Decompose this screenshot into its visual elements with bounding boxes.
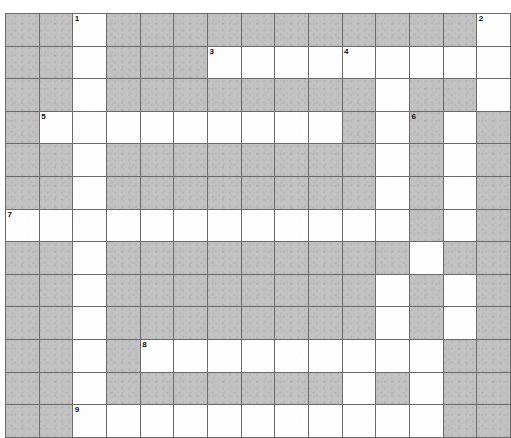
crossword-block-cell xyxy=(342,307,376,340)
crossword-open-cell[interactable] xyxy=(174,405,208,438)
crossword-grid[interactable]: 123456789 xyxy=(5,13,511,438)
crossword-row xyxy=(6,242,511,275)
crossword-block-cell xyxy=(241,372,275,405)
crossword-open-cell[interactable] xyxy=(241,339,275,372)
crossword-open-cell[interactable] xyxy=(342,405,376,438)
crossword-open-cell[interactable] xyxy=(443,209,477,242)
crossword-open-cell[interactable] xyxy=(477,79,511,112)
crossword-open-cell[interactable] xyxy=(275,339,309,372)
crossword-open-cell[interactable] xyxy=(409,339,443,372)
crossword-open-cell[interactable] xyxy=(376,274,410,307)
crossword-block-cell xyxy=(39,372,73,405)
crossword-open-cell[interactable] xyxy=(275,111,309,144)
crossword-row: 12 xyxy=(6,14,511,47)
crossword-open-cell[interactable] xyxy=(308,46,342,79)
crossword-open-cell[interactable] xyxy=(376,46,410,79)
crossword-open-cell[interactable] xyxy=(73,307,107,340)
crossword-block-cell xyxy=(6,372,40,405)
crossword-block-cell xyxy=(140,14,174,47)
crossword-open-cell[interactable] xyxy=(376,209,410,242)
crossword-open-cell[interactable]: 3 xyxy=(207,46,241,79)
crossword-open-cell[interactable] xyxy=(207,209,241,242)
crossword-open-cell[interactable] xyxy=(376,79,410,112)
crossword-open-cell[interactable] xyxy=(443,46,477,79)
crossword-block-cell xyxy=(207,242,241,275)
crossword-block-cell xyxy=(6,46,40,79)
crossword-open-cell[interactable] xyxy=(207,111,241,144)
crossword-open-cell[interactable] xyxy=(140,405,174,438)
crossword-open-cell[interactable]: 4 xyxy=(342,46,376,79)
crossword-open-cell[interactable] xyxy=(73,176,107,209)
crossword-open-cell[interactable] xyxy=(409,405,443,438)
clue-number: 7 xyxy=(8,210,12,219)
crossword-open-cell[interactable] xyxy=(140,209,174,242)
crossword-open-cell[interactable] xyxy=(308,111,342,144)
crossword-open-cell[interactable] xyxy=(342,372,376,405)
crossword-open-cell[interactable] xyxy=(477,46,511,79)
crossword-open-cell[interactable] xyxy=(73,111,107,144)
crossword-open-cell[interactable] xyxy=(308,405,342,438)
crossword-open-cell[interactable] xyxy=(39,209,73,242)
crossword-open-cell[interactable] xyxy=(73,79,107,112)
crossword-open-cell[interactable] xyxy=(409,242,443,275)
crossword-open-cell[interactable] xyxy=(241,46,275,79)
crossword-open-cell[interactable] xyxy=(106,209,140,242)
crossword-open-cell[interactable] xyxy=(342,209,376,242)
crossword-open-cell[interactable] xyxy=(73,209,107,242)
crossword-open-cell[interactable] xyxy=(443,111,477,144)
crossword-block-cell xyxy=(140,46,174,79)
crossword-open-cell[interactable]: 5 xyxy=(39,111,73,144)
crossword-open-cell[interactable] xyxy=(174,209,208,242)
crossword-block-cell xyxy=(241,144,275,177)
crossword-open-cell[interactable] xyxy=(342,339,376,372)
crossword-open-cell[interactable] xyxy=(140,111,174,144)
crossword-open-cell[interactable] xyxy=(376,339,410,372)
crossword-open-cell[interactable] xyxy=(308,209,342,242)
crossword-open-cell[interactable] xyxy=(106,111,140,144)
crossword-open-cell[interactable] xyxy=(275,405,309,438)
crossword-open-cell[interactable] xyxy=(409,46,443,79)
crossword-block-cell xyxy=(140,176,174,209)
crossword-open-cell[interactable]: 7 xyxy=(6,209,40,242)
crossword-open-cell[interactable] xyxy=(443,144,477,177)
crossword-open-cell[interactable] xyxy=(443,176,477,209)
crossword-open-cell[interactable] xyxy=(106,405,140,438)
crossword-open-cell[interactable]: 1 xyxy=(73,14,107,47)
crossword-open-cell[interactable] xyxy=(73,372,107,405)
crossword-open-cell[interactable] xyxy=(73,46,107,79)
crossword-open-cell[interactable] xyxy=(174,339,208,372)
crossword-block-cell xyxy=(39,144,73,177)
crossword-open-cell[interactable]: 8 xyxy=(140,339,174,372)
crossword-open-cell[interactable] xyxy=(443,307,477,340)
crossword-open-cell[interactable] xyxy=(376,307,410,340)
crossword-open-cell[interactable] xyxy=(443,274,477,307)
crossword-block-cell xyxy=(477,144,511,177)
crossword-open-cell[interactable] xyxy=(409,372,443,405)
crossword-open-cell[interactable] xyxy=(376,144,410,177)
crossword-open-cell[interactable] xyxy=(73,339,107,372)
crossword-block-cell xyxy=(106,14,140,47)
crossword-open-cell[interactable]: 9 xyxy=(73,405,107,438)
crossword-open-cell[interactable] xyxy=(73,242,107,275)
crossword-row: 56 xyxy=(6,111,511,144)
crossword-open-cell[interactable] xyxy=(308,339,342,372)
crossword-block-cell xyxy=(39,339,73,372)
crossword-block-cell xyxy=(308,79,342,112)
crossword-open-cell[interactable] xyxy=(207,405,241,438)
crossword-open-cell[interactable] xyxy=(241,405,275,438)
crossword-open-cell[interactable] xyxy=(73,144,107,177)
crossword-open-cell[interactable] xyxy=(241,209,275,242)
crossword-open-cell[interactable] xyxy=(376,111,410,144)
crossword-open-cell[interactable] xyxy=(376,176,410,209)
crossword-open-cell[interactable] xyxy=(275,46,309,79)
crossword-block-cell xyxy=(308,144,342,177)
crossword-open-cell[interactable] xyxy=(207,339,241,372)
crossword-open-cell[interactable]: 2 xyxy=(477,14,511,47)
crossword-open-cell[interactable] xyxy=(241,111,275,144)
crossword-open-cell[interactable] xyxy=(174,111,208,144)
crossword-block-cell xyxy=(39,307,73,340)
crossword-open-cell[interactable] xyxy=(275,209,309,242)
clue-number: 9 xyxy=(75,405,79,414)
crossword-open-cell[interactable] xyxy=(376,405,410,438)
crossword-open-cell[interactable] xyxy=(73,274,107,307)
